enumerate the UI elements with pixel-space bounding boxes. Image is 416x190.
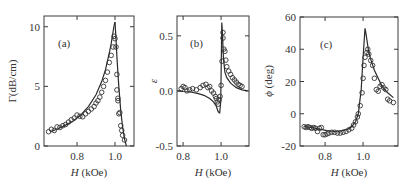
panel-b: 0.81.0-0.50.00.5 (b) H (kOe) ε xyxy=(147,16,249,179)
panel-b-data-point xyxy=(225,64,230,69)
panel-c-ylabel-unit: (deg) xyxy=(262,65,275,91)
panel-a-ticks: 0.81.00510 xyxy=(29,16,134,162)
panel-a-ylabel: Γ(dB/cm) xyxy=(6,59,19,102)
panel-c-xlabel: H (kOe) xyxy=(330,166,368,179)
panel-c-ylabel: ϕ (deg) xyxy=(262,65,275,97)
panel-b-marks xyxy=(177,23,247,113)
panel-c-xtick-label: 1.0 xyxy=(356,150,370,162)
panel-b-ytick-label: -0.5 xyxy=(156,140,174,152)
panel-a: 0.81.00510 (a) H (kOe) Γ(dB/cm) xyxy=(6,16,134,179)
panel-a-data-point xyxy=(75,113,80,118)
panel-c-ytick-label: 0 xyxy=(291,108,297,120)
panel-c-ytick-label: 40 xyxy=(285,43,297,55)
panel-c-data-point xyxy=(372,76,377,81)
panel-c-ytick-label: 60 xyxy=(285,11,297,23)
panel-c-data-point xyxy=(358,103,363,108)
panel-c-data-point xyxy=(391,100,396,105)
panel-b-xtick-label: 1.0 xyxy=(214,150,228,162)
panel-b-label: (b) xyxy=(190,37,203,50)
panel-c-ytick-label: 20 xyxy=(285,76,297,88)
panel-a-data-point xyxy=(105,70,110,75)
panel-a-ytick-label: 5 xyxy=(35,80,41,92)
panel-c: 0.81.0-200204060 (c) H (kOe) ϕ (deg) xyxy=(262,11,398,179)
panel-c-xtick-label: 0.8 xyxy=(318,150,332,162)
panel-a-label: (a) xyxy=(58,37,71,50)
panel-c-fit-line xyxy=(304,28,393,131)
panel-b-fit-line xyxy=(177,23,247,113)
panel-b-ytick-label: 0.5 xyxy=(159,30,173,42)
panel-c-marks xyxy=(302,28,396,137)
panel-c-xlabel-unit: (kOe) xyxy=(339,166,368,179)
panel-a-xtick-label: 0.8 xyxy=(70,150,84,162)
panel-a-ytick-label: 0 xyxy=(35,140,41,152)
panel-b-xlabel: H (kOe) xyxy=(194,166,232,179)
panel-a-data-point xyxy=(99,90,104,95)
panel-a-xlabel: H (kOe) xyxy=(70,166,108,179)
panel-b-ytick-label: 0.0 xyxy=(159,85,173,97)
panel-c-label: (c) xyxy=(320,38,333,51)
panel-a-data-point xyxy=(101,84,106,89)
panel-a-data-point xyxy=(103,78,108,83)
panel-b-xtick-label: 0.8 xyxy=(176,150,190,162)
panel-a-xtick-label: 1.0 xyxy=(108,150,122,162)
panel-b-ylabel: ε xyxy=(147,78,159,83)
panel-b-xlabel-unit: (kOe) xyxy=(203,166,232,179)
panel-a-data-point xyxy=(98,95,103,100)
panel-a-xlabel-unit: (kOe) xyxy=(79,166,108,179)
panel-c-ytick-label: -20 xyxy=(281,140,296,152)
panel-a-data-point xyxy=(109,53,114,58)
panel-a-ytick-label: 10 xyxy=(29,21,41,33)
figure: 0.81.00510 (a) H (kOe) Γ(dB/cm) 0.81.0-0… xyxy=(0,0,416,190)
